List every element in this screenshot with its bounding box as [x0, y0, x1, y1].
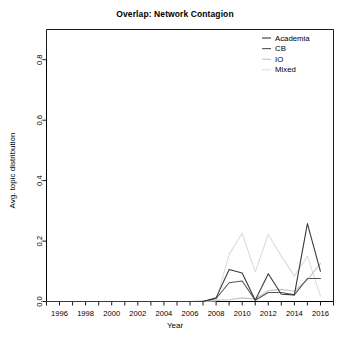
chart-container: Overlap: Network Contagion Year Avg. top… — [0, 0, 350, 343]
x-tick-label: 1998 — [77, 309, 94, 318]
x-tick-label: 2000 — [103, 309, 120, 318]
x-tick-label: 2004 — [155, 309, 172, 318]
legend-label-io: IO — [275, 55, 283, 64]
x-tick-label: 2016 — [312, 309, 329, 318]
y-tick-label: 0.2 — [35, 236, 44, 247]
x-tick-label: 2010 — [234, 309, 251, 318]
y-tick-label: 0.8 — [35, 54, 44, 65]
x-tick-label: 1996 — [51, 309, 68, 318]
series-line-io — [47, 263, 321, 301]
x-tick-label: 2012 — [260, 309, 277, 318]
y-tick-label: 0.6 — [35, 115, 44, 126]
legend-label-cb: CB — [275, 44, 286, 53]
y-axis: 0.00.20.40.60.8 — [35, 54, 47, 306]
y-tick-label: 0.4 — [35, 175, 44, 186]
legend-label-academia: Academia — [275, 34, 310, 43]
plot-area: 0.00.20.40.60.8 199619982000200220042006… — [0, 0, 350, 343]
x-tick-label: 2008 — [208, 309, 225, 318]
x-tick-label: 2006 — [182, 309, 199, 318]
data-series-group — [47, 224, 321, 302]
x-axis: 1996199820002002200420062008201020122014… — [47, 302, 334, 318]
legend-label-mixed: Mixed — [275, 65, 296, 74]
y-tick-label: 0.0 — [35, 296, 44, 307]
chart-legend: AcademiaCBIOMixed — [262, 34, 310, 75]
x-tick-label: 2002 — [129, 309, 146, 318]
x-tick-label: 2014 — [286, 309, 303, 318]
